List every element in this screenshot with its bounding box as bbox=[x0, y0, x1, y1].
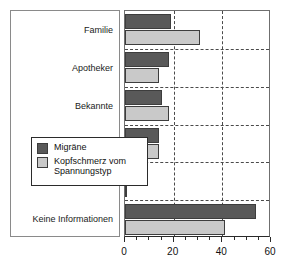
axis-tick-minor bbox=[209, 237, 210, 240]
axis-tick-label: 60 bbox=[264, 246, 275, 257]
axis-tick-major bbox=[221, 237, 222, 242]
axis-tick-label: 40 bbox=[216, 246, 227, 257]
category-label: Keine Informationen bbox=[32, 214, 113, 224]
plot-area bbox=[124, 10, 270, 237]
gridline-horizontal bbox=[125, 87, 269, 88]
bar bbox=[125, 204, 256, 219]
axis-tick-minor bbox=[197, 237, 198, 240]
bar-chart: FamilieApothekerBekanntePresseAndere Que… bbox=[0, 0, 282, 265]
axis-tick-label: 0 bbox=[121, 246, 127, 257]
bar bbox=[125, 68, 159, 83]
axis-tick-minor bbox=[148, 237, 149, 240]
axis-tick-minor bbox=[258, 237, 259, 240]
axis-tick-minor bbox=[161, 237, 162, 240]
bar bbox=[125, 52, 169, 67]
axis-tick-label: 20 bbox=[167, 246, 178, 257]
axis-tick-major bbox=[124, 237, 125, 242]
legend-item-kopfschmerz: Kopfschmerz vom Spannungstyp bbox=[37, 156, 142, 176]
legend-item-migrane: Migräne bbox=[37, 142, 142, 154]
chart-legend: Migräne Kopfschmerz vom Spannungstyp bbox=[31, 137, 148, 186]
category-label: Apotheker bbox=[72, 63, 113, 73]
axis-tick-major bbox=[173, 237, 174, 242]
legend-label-kopfschmerz: Kopfschmerz vom Spannungstyp bbox=[54, 156, 142, 176]
category-label: Bekannte bbox=[75, 101, 113, 111]
axis-tick-major bbox=[270, 237, 271, 242]
gridline-vertical bbox=[222, 11, 223, 236]
axis-tick-minor bbox=[234, 237, 235, 240]
bar bbox=[125, 106, 169, 121]
x-axis: 0204060 bbox=[124, 237, 270, 265]
gridline-horizontal bbox=[125, 200, 269, 201]
bar bbox=[125, 14, 171, 29]
legend-swatch-icon-kopfschmerz bbox=[37, 157, 48, 168]
gridline-horizontal bbox=[125, 49, 269, 50]
axis-tick-minor bbox=[136, 237, 137, 240]
legend-swatch-icon-migrane bbox=[37, 143, 48, 154]
legend-label-migrane: Migräne bbox=[54, 142, 87, 152]
gridline-horizontal bbox=[125, 125, 269, 126]
bar bbox=[125, 90, 162, 105]
bar bbox=[125, 30, 200, 45]
axis-tick-minor bbox=[246, 237, 247, 240]
bar bbox=[125, 220, 225, 235]
category-label-panel: FamilieApothekerBekanntePresseAndere Que… bbox=[10, 10, 120, 237]
category-label: Familie bbox=[84, 25, 113, 35]
axis-tick-minor bbox=[185, 237, 186, 240]
